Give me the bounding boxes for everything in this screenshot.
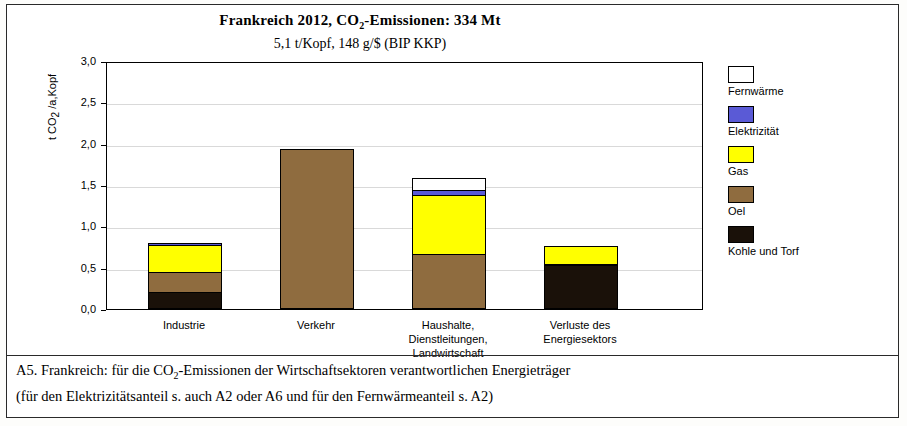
bar-segment [412, 254, 486, 309]
x-axis-label-line: Verkehr [251, 318, 381, 332]
legend-swatch [728, 146, 754, 163]
caption-line-1-pre: A5. Frankreich: für die CO [16, 362, 173, 378]
caption-line-1: A5. Frankreich: für die CO2-Emissionen d… [16, 360, 886, 386]
gridline [107, 104, 702, 105]
y-tick-label: 1,5 [56, 179, 96, 191]
x-axis-label: Verkehr [251, 318, 381, 332]
figure-caption: A5. Frankreich: für die CO2-Emissionen d… [16, 360, 886, 407]
y-axis-title-pre: t CO [46, 117, 58, 140]
gridline [107, 228, 702, 229]
y-tick-label: 1,0 [56, 220, 96, 232]
legend-swatch [728, 226, 754, 243]
y-axis-title: t CO2 /a,Kopf [46, 10, 61, 140]
legend-label: Gas [728, 165, 748, 177]
y-tick-label: 0,0 [56, 303, 96, 315]
caption-divider [7, 355, 898, 356]
y-tick-label: 2,0 [56, 138, 96, 150]
bar-segment [280, 149, 354, 309]
x-axis-label-line: Haushalte, [383, 318, 513, 332]
legend-label: Kohle und Torf [728, 245, 799, 257]
x-axis-label-line: Landwirtschaft [383, 346, 513, 360]
y-tick-label: 3,0 [56, 55, 96, 67]
chart-title-post: -Emissionen: 334 Mt [364, 12, 500, 28]
x-axis-label: Industrie [119, 318, 249, 332]
bar-segment [148, 245, 222, 272]
legend-item: Oel [728, 186, 888, 226]
legend-label: Oel [728, 205, 745, 217]
legend-item: Gas [728, 146, 888, 186]
x-axis-label-line: Industrie [119, 318, 249, 332]
x-axis-label: Verluste desEnergiesektors [515, 318, 645, 346]
plot-area [106, 62, 703, 310]
bar-segment [544, 265, 618, 309]
gridline [107, 187, 702, 188]
x-axis-label-line: Verluste des [515, 318, 645, 332]
figure-panel: Frankreich 2012, CO2-Emissionen: 334 Mt … [0, 0, 907, 426]
legend-item: Fernwärme [728, 66, 888, 106]
x-axis-label-line: Dienstleitungen, [383, 332, 513, 346]
legend-label: Fernwärme [728, 85, 784, 97]
legend-item: Elektrizität [728, 106, 888, 146]
chart-title: Frankreich 2012, CO2-Emissionen: 334 Mt [0, 12, 720, 31]
bar-segment [412, 195, 486, 255]
chart-legend: FernwärmeElektrizitätGasOelKohle und Tor… [728, 66, 888, 266]
legend-swatch [728, 66, 754, 83]
x-axis-label-line: Energiesektors [515, 332, 645, 346]
bar-segment [148, 292, 222, 309]
bar-stack [148, 243, 222, 309]
x-axis-label: Haushalte,Dienstleitungen,Landwirtschaft [383, 318, 513, 360]
caption-line-2: (für den Elektrizitätsanteil s. auch A2 … [16, 386, 886, 407]
caption-line-1-post: -Emissionen der Wirtschaftsektoren veran… [178, 362, 570, 378]
legend-swatch [728, 186, 754, 203]
y-axis-title-subscript: 2 [50, 112, 61, 118]
bar-stack [544, 246, 618, 309]
bar-segment [412, 178, 486, 190]
legend-label: Elektrizität [728, 125, 779, 137]
bar-stack [280, 149, 354, 309]
chart-subtitle: 5,1 t/Kopf, 148 g/$ (BIP KKP) [0, 36, 720, 52]
legend-swatch [728, 106, 754, 123]
legend-item: Kohle und Torf [728, 226, 888, 266]
y-tick-mark [101, 310, 106, 311]
y-tick-label: 2,5 [56, 96, 96, 108]
chart-title-pre: Frankreich 2012, CO [219, 12, 359, 28]
bar-segment [544, 246, 618, 263]
bar-stack [412, 178, 486, 309]
bar-segment [148, 272, 222, 293]
gridline [107, 146, 702, 147]
y-tick-label: 0,5 [56, 262, 96, 274]
